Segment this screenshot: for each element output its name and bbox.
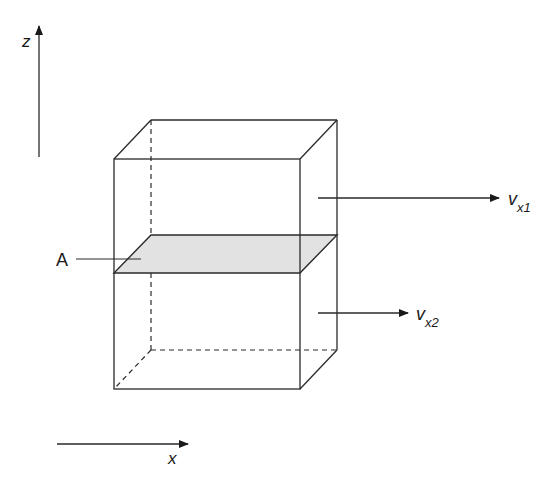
plane-a <box>114 235 337 273</box>
plane-a-label: A <box>56 250 68 270</box>
velocity-vx2-subscript: x2 <box>424 315 440 330</box>
velocity-vx1-subscript: x1 <box>516 200 531 215</box>
z-axis-label: z <box>21 32 31 51</box>
velocity-vx2-label: vx2 <box>416 304 440 330</box>
shear-flow-diagram: z x A vx1 vx2 <box>0 0 552 488</box>
x-axis-label: x <box>167 449 177 468</box>
velocity-vx1-label: vx1 <box>508 189 531 215</box>
